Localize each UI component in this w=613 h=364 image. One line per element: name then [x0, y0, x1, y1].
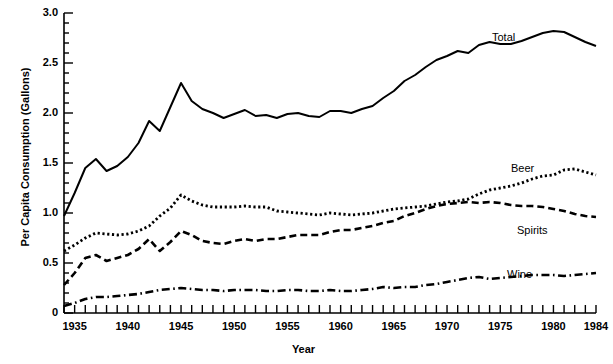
y-axis-tick-label: 3.0 [0, 6, 58, 18]
y-axis-tick-label: 0 [0, 306, 58, 318]
x-axis-ticks [64, 305, 596, 313]
y-axis-title: Per Capita Consumption (Gallons) [15, 57, 33, 257]
y-axis-ticks [64, 13, 73, 313]
x-axis-tick-label: 1965 [364, 320, 424, 332]
x-axis-tick-label: 1945 [151, 320, 211, 332]
x-axis-tick-label: 1970 [417, 320, 477, 332]
x-axis-title: Year [0, 343, 607, 355]
series-line-total [64, 31, 596, 216]
series-label-total: Total [492, 31, 515, 43]
x-axis-tick-label: 1960 [311, 320, 371, 332]
series-label-wine: Wine [507, 268, 532, 280]
x-axis-tick-label: 1955 [257, 320, 317, 332]
x-axis-tick-label: 1950 [204, 320, 264, 332]
x-axis-title-text: Year [292, 343, 315, 355]
y-axis-tick-label: 0.5 [0, 256, 58, 268]
x-axis-tick-label: 1940 [98, 320, 158, 332]
x-axis-tick-label: 1984 [566, 320, 613, 332]
x-axis-tick-label: 1975 [470, 320, 530, 332]
x-axis-tick-label: 1935 [45, 320, 105, 332]
series-line-beer [64, 169, 596, 251]
series-label-spirits: Spirits [517, 224, 548, 236]
series-label-beer: Beer [511, 162, 534, 174]
y-axis-title-text: Per Capita Consumption (Gallons) [19, 67, 31, 246]
